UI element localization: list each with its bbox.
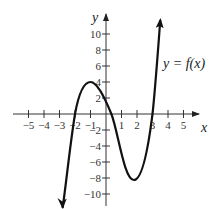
x-ticks: −5−4−3−2−112345 bbox=[23, 110, 187, 131]
x-tick-label: −4 bbox=[38, 119, 50, 131]
x-axis-label: x bbox=[200, 120, 208, 135]
y-tick-label: −2 bbox=[89, 124, 101, 136]
x-tick-label: −3 bbox=[54, 119, 66, 131]
y-tick-label: −10 bbox=[84, 188, 102, 200]
y-tick-label: 6 bbox=[96, 60, 102, 72]
x-tick-label: 4 bbox=[165, 119, 171, 131]
y-tick-label: −8 bbox=[89, 172, 101, 184]
y-tick-label: 8 bbox=[96, 44, 102, 56]
x-tick-label: 5 bbox=[181, 119, 187, 131]
function-graph: −5−4−3−2−112345 108642−2−4−6−8−10 x y y … bbox=[0, 0, 219, 209]
function-label: y = f(x) bbox=[161, 56, 205, 72]
y-tick-label: 10 bbox=[90, 28, 102, 40]
x-tick-label: −5 bbox=[23, 119, 35, 131]
y-axis-label: y bbox=[90, 10, 99, 25]
y-tick-label: −6 bbox=[89, 156, 101, 168]
y-tick-label: 2 bbox=[96, 92, 102, 104]
x-tick-label: 2 bbox=[134, 119, 140, 131]
y-tick-label: −4 bbox=[89, 140, 101, 152]
x-tick-label: 1 bbox=[119, 119, 125, 131]
curve-arrow-down-icon bbox=[58, 198, 67, 209]
